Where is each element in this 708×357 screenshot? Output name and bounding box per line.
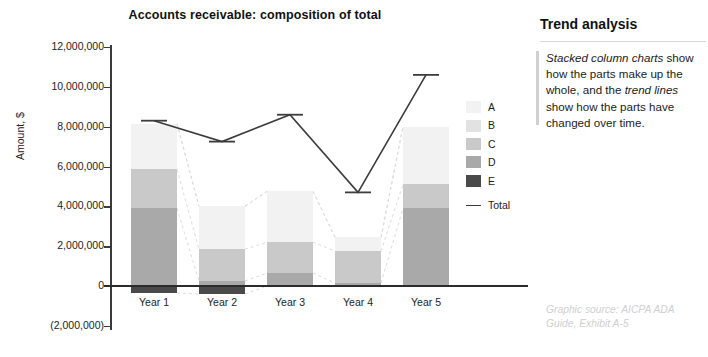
legend-item-b: B <box>466 116 528 134</box>
legend-item-a: A <box>466 98 528 116</box>
legend-item-c: C <box>466 135 528 153</box>
legend-label: C <box>488 139 496 150</box>
plot-area <box>110 40 470 332</box>
sidebar-title: Trend analysis <box>540 16 637 32</box>
chart-legend: ABCDE Total <box>466 98 528 214</box>
legend-item-d: D <box>466 153 528 171</box>
chart-title: Accounts receivable: composition of tota… <box>0 8 510 22</box>
y-tick-label: 6,000,000 <box>8 160 104 172</box>
y-tick-label: (2,000,000) <box>8 319 104 331</box>
y-tick-label: 12,000,000 <box>8 40 104 52</box>
legend-label: B <box>488 120 495 131</box>
legend-swatch-icon <box>466 156 481 168</box>
total-line-icon <box>466 205 481 206</box>
legend-swatch-icon <box>466 101 481 113</box>
y-tick-label: 8,000,000 <box>8 120 104 132</box>
legend-label: A <box>488 102 495 113</box>
y-tick-label: 0 <box>8 279 104 291</box>
graphic-source-note: Graphic source: AICPA ADA Guide, Exhibit… <box>546 303 704 331</box>
chart-panel: Accounts receivable: composition of tota… <box>0 0 528 357</box>
sidebar-body-text: Stacked column charts show how the parts… <box>546 50 704 131</box>
y-tick-label: 4,000,000 <box>8 199 104 211</box>
legend-swatch-icon <box>466 120 481 132</box>
legend-swatch-icon <box>466 175 481 187</box>
x-axis-label: Year 5 <box>386 296 466 308</box>
legend-label: E <box>488 176 495 187</box>
total-trend-line <box>110 40 470 332</box>
legend-item-e: E <box>466 172 528 190</box>
y-tick-label: 2,000,000 <box>8 239 104 251</box>
trend-analysis-sidebar: Trend analysis Stacked column charts sho… <box>536 0 708 357</box>
sidebar-accent-bar <box>536 51 539 125</box>
legend-label: D <box>488 157 496 168</box>
y-tick-label: 10,000,000 <box>8 80 104 92</box>
chart-page: Accounts receivable: composition of tota… <box>0 0 708 357</box>
zero-baseline <box>104 285 528 287</box>
legend-item-total: Total <box>466 196 528 214</box>
legend-swatch-icon <box>466 138 481 150</box>
sidebar-divider <box>540 41 706 42</box>
legend-label-total: Total <box>488 200 510 211</box>
